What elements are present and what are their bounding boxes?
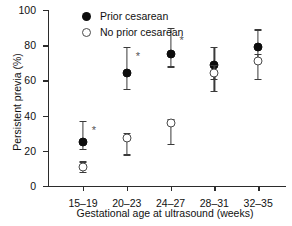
chart-figure: Persistent previa (%) Gestational age at… bbox=[0, 0, 292, 226]
y-tick: 60 bbox=[43, 80, 48, 81]
significance-asterisk: * bbox=[136, 50, 140, 61]
filled-circle-icon bbox=[82, 12, 91, 21]
x-tick-label: 24–27 bbox=[156, 197, 185, 209]
y-tick-label: 0 bbox=[30, 181, 36, 192]
error-bar-cap bbox=[167, 144, 174, 145]
y-tick-label: 80 bbox=[24, 40, 36, 51]
x-tick bbox=[83, 186, 84, 191]
error-bar-cap bbox=[255, 79, 262, 80]
x-tick bbox=[258, 186, 259, 191]
data-point[interactable] bbox=[78, 138, 87, 147]
error-bar-cap bbox=[123, 89, 130, 90]
x-tick bbox=[127, 186, 128, 191]
y-axis-line bbox=[48, 10, 49, 187]
x-tick-label: 20–23 bbox=[112, 197, 141, 209]
data-point[interactable] bbox=[166, 50, 175, 59]
error-bar-cap bbox=[79, 121, 86, 122]
y-tick: 80 bbox=[43, 45, 48, 46]
chart-legend: Prior cesareanNo prior cesarean bbox=[82, 8, 183, 40]
y-tick: 0 bbox=[43, 186, 48, 187]
error-bar-cap bbox=[79, 149, 86, 150]
x-tick-label: 32–35 bbox=[244, 197, 273, 209]
significance-asterisk: * bbox=[92, 124, 96, 135]
error-bar-cap bbox=[123, 154, 130, 155]
y-tick: 100 bbox=[43, 10, 48, 11]
x-tick-label: 15–19 bbox=[68, 197, 97, 209]
open-circle-icon bbox=[82, 28, 91, 37]
error-bar-cap bbox=[255, 29, 262, 30]
y-tick-label: 20 bbox=[24, 146, 36, 157]
error-bar-cap bbox=[79, 172, 86, 173]
data-point[interactable] bbox=[166, 118, 175, 127]
legend-item[interactable]: No prior cesarean bbox=[82, 24, 183, 40]
error-bar-cap bbox=[211, 65, 218, 66]
data-point[interactable] bbox=[210, 69, 219, 78]
x-tick bbox=[214, 186, 215, 191]
y-tick: 20 bbox=[43, 151, 48, 152]
error-bar-cap bbox=[167, 66, 174, 67]
y-tick-label: 60 bbox=[24, 75, 36, 86]
y-axis-label: Persistent previa (%) bbox=[11, 27, 23, 177]
legend-label: No prior cesarean bbox=[100, 26, 183, 38]
legend-item[interactable]: Prior cesarean bbox=[82, 8, 183, 24]
data-point[interactable] bbox=[122, 134, 131, 143]
error-bar-cap bbox=[123, 47, 130, 48]
y-tick-label: 100 bbox=[18, 5, 36, 16]
data-point[interactable] bbox=[78, 162, 87, 171]
error-bar-cap bbox=[211, 47, 218, 48]
y-tick: 40 bbox=[43, 116, 48, 117]
legend-label: Prior cesarean bbox=[100, 10, 168, 22]
data-point[interactable] bbox=[254, 57, 263, 66]
error-bar-cap bbox=[255, 54, 262, 55]
x-tick bbox=[171, 186, 172, 191]
data-point[interactable] bbox=[122, 69, 131, 78]
error-bar-cap bbox=[211, 91, 218, 92]
y-tick-label: 40 bbox=[24, 110, 36, 121]
data-point[interactable] bbox=[254, 42, 263, 51]
x-tick-label: 28–31 bbox=[200, 197, 229, 209]
